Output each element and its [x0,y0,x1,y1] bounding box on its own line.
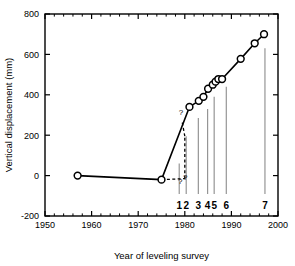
x-axis-title: Year of leveling survey [114,250,209,261]
plot-area-background [45,14,278,216]
y-axis-tick-labels: -2000200400600800 [21,9,39,221]
data-point [261,31,268,38]
y-tick-label: 0 [34,171,39,181]
x-tick-label: 1950 [35,220,55,230]
x-tick-label: 1980 [175,220,195,230]
y-tick-label: 800 [24,9,39,19]
data-point [237,55,244,62]
x-tick-label: 1990 [221,220,241,230]
y-tick-label: -200 [21,211,39,221]
event-marker-label-1: 1 [176,200,182,211]
event-marker-label-3: 3 [196,200,202,211]
event-marker-label-6: 6 [223,200,229,211]
event-marker-label-4: 4 [205,200,211,211]
y-axis-title: Vertical displacement (mm) [3,58,14,173]
data-point [200,93,207,100]
event-marker-label-7: 7 [262,200,268,211]
vertical-displacement-line-chart: ??? 195019601970198019902000 -2000200400… [0,0,295,266]
data-point [186,104,193,111]
question-mark-lower-right: ? [183,173,188,182]
x-tick-label: 1960 [82,220,102,230]
y-tick-label: 200 [24,131,39,141]
question-mark-upper: ? [179,108,184,117]
data-point [251,40,258,47]
y-tick-label: 600 [24,50,39,60]
event-marker-label-2: 2 [183,200,189,211]
event-marker-label-5: 5 [211,200,217,211]
data-point [74,172,81,179]
x-tick-label: 2000 [268,220,288,230]
x-axis-tick-labels: 195019601970198019902000 [35,220,288,230]
x-tick-label: 1970 [128,220,148,230]
y-tick-label: 400 [24,90,39,100]
figure-container: ??? 195019601970198019902000 -2000200400… [0,0,295,266]
data-point [219,76,226,83]
data-point [158,176,165,183]
